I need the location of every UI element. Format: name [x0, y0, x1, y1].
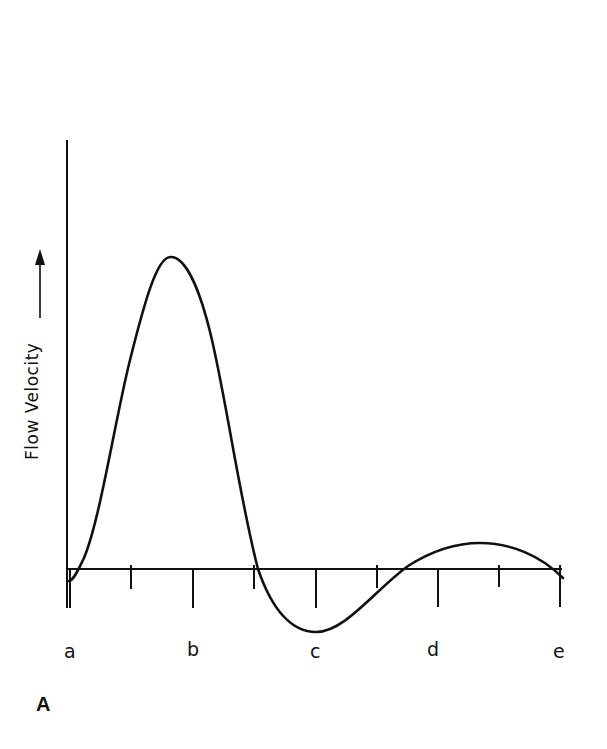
major-ticks [70, 565, 560, 608]
panel-label: A [36, 693, 50, 716]
up-arrow-head-icon [35, 249, 45, 265]
tick-label-a: a [64, 640, 76, 662]
tick-label-b: b [187, 638, 199, 660]
tick-label-e: e [553, 640, 565, 662]
flow-velocity-chart [0, 0, 607, 749]
tick-label-d: d [427, 638, 439, 660]
tick-label-c: c [310, 640, 320, 662]
y-axis-label: Flow Velocity [22, 343, 42, 460]
